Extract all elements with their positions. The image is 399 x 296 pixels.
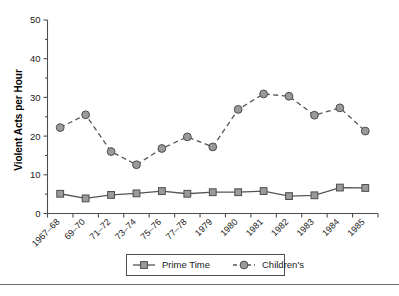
data-point-square: [57, 190, 64, 197]
data-point-square: [184, 190, 191, 197]
data-point-square: [159, 188, 166, 195]
data-point-circle: [158, 145, 166, 153]
data-point-square: [133, 190, 140, 197]
violent-acts-line-chart: Violent Acts per Hour 01020304050 1967–6…: [0, 0, 399, 296]
data-point-square: [286, 193, 293, 200]
data-point-circle: [209, 143, 217, 151]
data-point-square: [108, 192, 115, 199]
legend-square-marker: [141, 262, 148, 269]
data-point-circle: [56, 124, 64, 132]
legend-circle-marker: [240, 261, 248, 269]
data-point-square: [235, 189, 242, 196]
data-point-square: [336, 184, 343, 191]
data-point-circle: [260, 90, 268, 98]
data-point-circle: [82, 111, 90, 119]
y-tick-label: 50: [30, 14, 41, 25]
y-tick-label: 20: [30, 131, 41, 142]
data-point-square: [82, 195, 89, 202]
legend-label-1: Prime Time: [162, 259, 210, 270]
data-point-circle: [133, 161, 141, 169]
y-tick-label: 30: [30, 92, 41, 103]
y-tick-label: 0: [35, 208, 40, 219]
y-tick-label: 10: [30, 169, 41, 180]
y-axis-title: Violent Acts per Hour: [13, 69, 24, 171]
footer-divider: [0, 284, 399, 285]
data-point-square: [311, 192, 318, 199]
y-tick-label: 40: [30, 53, 41, 64]
data-point-square: [209, 189, 216, 196]
chart-legend: Prime TimeChildren's: [127, 255, 305, 276]
y-axis-title-text: Violent Acts per Hour: [13, 69, 24, 171]
data-point-circle: [336, 104, 344, 112]
legend-label-2: Children's: [262, 259, 304, 270]
data-point-circle: [285, 92, 293, 100]
data-point-circle: [234, 105, 242, 113]
chart-background: [0, 0, 399, 296]
data-point-square: [260, 188, 267, 195]
data-point-square: [362, 185, 369, 192]
data-point-circle: [311, 111, 319, 119]
data-point-circle: [361, 127, 369, 135]
chart-canvas: Violent Acts per Hour 01020304050 1967–6…: [0, 0, 399, 296]
data-point-circle: [183, 133, 191, 141]
data-point-circle: [107, 148, 115, 156]
